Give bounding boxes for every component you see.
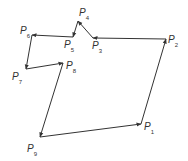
point-label-p4: P4	[79, 8, 89, 20]
point-label-p7: P7	[12, 72, 22, 84]
polygon-diagram	[0, 0, 188, 161]
edge-arrow	[78, 21, 93, 38]
edge-arrow	[141, 39, 166, 124]
point-label-p1: P1	[144, 122, 154, 134]
edge-arrow	[40, 124, 141, 137]
edge-arrow	[32, 35, 73, 37]
point-label-p9: P9	[27, 144, 37, 156]
point-label-p3: P3	[92, 41, 102, 53]
edge-arrow	[93, 38, 166, 39]
edge-arrow	[26, 35, 32, 69]
point-label-p5: P5	[64, 40, 74, 52]
edge-arrow	[40, 63, 63, 137]
edges	[26, 21, 166, 137]
edge-arrow	[73, 21, 78, 37]
edge-arrow	[26, 63, 63, 69]
point-label-p8: P8	[66, 61, 76, 73]
point-label-p2: P2	[168, 35, 178, 47]
point-label-p6: P6	[20, 26, 30, 38]
